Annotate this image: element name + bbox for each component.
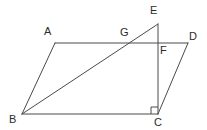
vertex-label-B: B [9,114,16,125]
geometry-figure: A B C D E F G [0,0,207,130]
vertex-label-G: G [120,27,129,38]
vertex-label-D: D [189,31,197,42]
vertex-label-E: E [150,5,157,16]
right-angle-marker-at-C [151,107,158,114]
vertex-label-A: A [44,26,51,37]
geometry-canvas [0,0,207,130]
vertex-label-F: F [160,45,167,56]
vertex-label-C: C [154,117,162,128]
